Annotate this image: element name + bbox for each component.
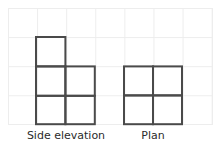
plan-figure (0, 0, 222, 146)
plan-cell-top-right (153, 66, 182, 95)
diagram-canvas: Side elevation Plan (0, 0, 222, 146)
plan-caption: Plan (123, 129, 183, 142)
plan-cell-top-left (124, 66, 153, 95)
figures-layer (0, 0, 222, 146)
plan-cell-bottom-left (124, 95, 153, 124)
plan-cell-bottom-right (153, 95, 182, 124)
plan-cells (124, 66, 182, 124)
side-elevation-caption: Side elevation (6, 129, 126, 142)
